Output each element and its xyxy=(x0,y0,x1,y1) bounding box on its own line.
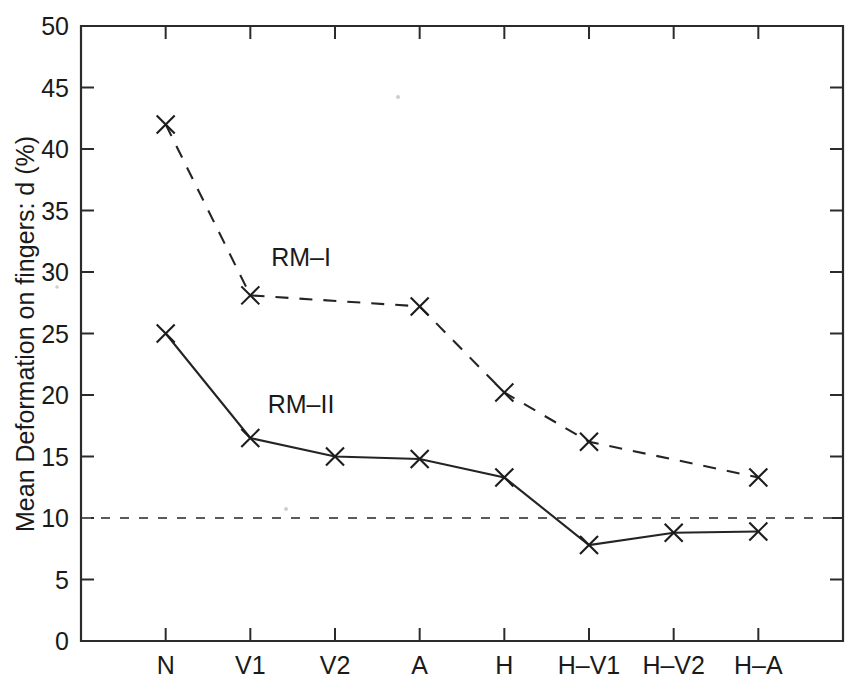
x-tick-label: N xyxy=(157,651,175,679)
y-tick-label: 0 xyxy=(55,627,69,655)
y-tick-label: 35 xyxy=(41,197,69,225)
x-tick-label: H–V1 xyxy=(558,651,621,679)
data-point-marker xyxy=(157,325,175,343)
x-tick-label: H xyxy=(495,651,513,679)
scan-speck xyxy=(284,507,288,511)
data-point-marker xyxy=(495,468,513,486)
y-tick-label: 20 xyxy=(41,381,69,409)
data-point-marker xyxy=(495,384,513,402)
y-axis-ticks xyxy=(81,26,843,641)
x-axis-ticks xyxy=(166,26,759,641)
y-tick-label: 25 xyxy=(41,320,69,348)
x-axis-tick-labels: NV1V2AHH–V1H–V2H–A xyxy=(157,651,783,679)
scan-speck xyxy=(396,95,400,99)
data-point-marker xyxy=(411,297,429,315)
plot-frame xyxy=(81,26,843,641)
y-tick-label: 30 xyxy=(41,258,69,286)
y-axis-title: Mean Deformation on fingers: d (%) xyxy=(11,136,39,532)
y-tick-label: 5 xyxy=(55,566,69,594)
data-point-marker xyxy=(749,468,767,486)
y-tick-label: 10 xyxy=(41,504,69,532)
line-chart: 05101520253035404550 NV1V2AHH–V1H–V2H–A … xyxy=(0,0,860,684)
series-markers xyxy=(157,115,768,554)
x-tick-label: V2 xyxy=(320,651,351,679)
x-tick-label: A xyxy=(411,651,428,679)
x-tick-label: H–A xyxy=(734,651,783,679)
series-label-rm-ii: RM–II xyxy=(268,390,335,418)
y-tick-label: 40 xyxy=(41,135,69,163)
y-tick-label: 50 xyxy=(41,12,69,40)
data-point-marker xyxy=(580,433,598,451)
scan-speck xyxy=(55,285,59,289)
y-tick-label: 15 xyxy=(41,443,69,471)
series-annotations: RM–IRM–II xyxy=(268,243,335,419)
data-point-marker xyxy=(241,429,259,447)
y-axis-tick-labels: 05101520253035404550 xyxy=(41,12,69,655)
x-tick-label: V1 xyxy=(235,651,266,679)
series-line-rm-ii xyxy=(166,334,759,546)
chart-figure: 05101520253035404550 NV1V2AHH–V1H–V2H–A … xyxy=(0,0,860,684)
series-paths xyxy=(166,124,759,545)
y-tick-label: 45 xyxy=(41,74,69,102)
data-point-marker xyxy=(157,115,175,133)
series-label-rm-i: RM–I xyxy=(271,243,331,271)
x-tick-label: H–V2 xyxy=(642,651,705,679)
